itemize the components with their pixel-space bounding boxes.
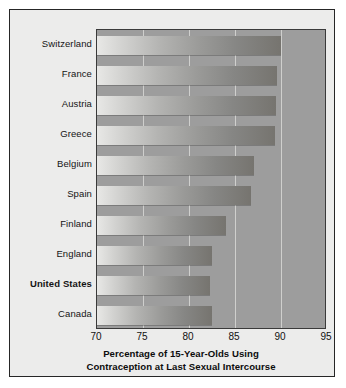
- x-tick-label-95: 95: [320, 331, 331, 342]
- bar-austria: [97, 96, 276, 115]
- y-axis-label-belgium: Belgium: [12, 158, 92, 169]
- y-axis-label-greece: Greece: [12, 128, 92, 139]
- bar-row: [97, 120, 325, 150]
- chart-title-line-1: Percentage of 15-Year-Olds Using: [34, 348, 328, 361]
- x-tick-label-70: 70: [90, 331, 101, 342]
- y-axis-labels: SwitzerlandFranceAustriaGreeceBelgiumSpa…: [10, 29, 92, 329]
- plot-area: [96, 29, 326, 329]
- y-axis-label-finland: Finland: [12, 218, 92, 229]
- chart-title: Percentage of 15-Year-Olds Using Contrac…: [34, 348, 328, 373]
- x-tick-label-75: 75: [136, 331, 147, 342]
- bar-united-states: [97, 276, 210, 295]
- chart-figure: SwitzerlandFranceAustriaGreeceBelgiumSpa…: [9, 9, 335, 377]
- y-axis-label-spain: Spain: [12, 188, 92, 199]
- bar-series: [97, 30, 325, 328]
- bar-row: [97, 150, 325, 180]
- y-axis-label-switzerland: Switzerland: [12, 38, 92, 49]
- y-axis-label-united-states: United States: [12, 278, 92, 289]
- x-axis: 707580859095: [96, 331, 326, 345]
- x-tick-label-80: 80: [182, 331, 193, 342]
- bar-row: [97, 180, 325, 210]
- bar-row: [97, 30, 325, 60]
- x-tick-label-90: 90: [274, 331, 285, 342]
- bar-row: [97, 270, 325, 300]
- bar-row: [97, 240, 325, 270]
- chart-title-line-2: Contraception at Last Sexual Intercourse: [34, 361, 328, 374]
- bar-row: [97, 300, 325, 330]
- bar-belgium: [97, 156, 254, 175]
- bar-row: [97, 90, 325, 120]
- bar-france: [97, 66, 277, 85]
- bar-spain: [97, 186, 251, 205]
- bar-row: [97, 60, 325, 90]
- y-axis-label-austria: Austria: [12, 98, 92, 109]
- bar-finland: [97, 216, 226, 235]
- bar-row: [97, 210, 325, 240]
- y-axis-label-england: England: [12, 248, 92, 259]
- bar-greece: [97, 126, 275, 145]
- x-tick-label-85: 85: [228, 331, 239, 342]
- bar-canada: [97, 306, 212, 325]
- bar-england: [97, 246, 212, 265]
- y-axis-label-canada: Canada: [12, 308, 92, 319]
- y-axis-label-france: France: [12, 68, 92, 79]
- bar-switzerland: [97, 36, 281, 55]
